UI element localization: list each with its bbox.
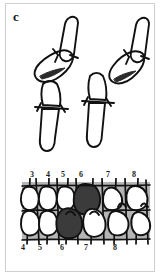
lower-tooth-number-4: 4 [18, 242, 28, 254]
upper-tooth-crown-7 [103, 188, 122, 211]
lower-tooth-crown-7 [83, 209, 105, 237]
occlusal-line-left [22, 210, 58, 211]
right-upper-tooth-root [131, 18, 149, 62]
figure-panel-c: c [0, 0, 161, 277]
lower-tooth-crown-6-shaded [56, 208, 82, 238]
occlusal-line-right [103, 210, 150, 211]
left-upper-cervical-tick-b [55, 55, 58, 62]
lower-tooth-number-7: 7 [81, 242, 91, 254]
lower-tooth-number-5: 5 [35, 242, 45, 254]
lower-tooth-number-8: 8 [110, 242, 120, 254]
dental-arch-diagram: 3 4 5 6 7 8 [10, 166, 152, 266]
upper-tooth-crown-8 [126, 186, 147, 210]
lower-tooth-number-6: 6 [57, 242, 67, 254]
left-lower-tooth-root [40, 109, 59, 151]
upper-cervical-line [22, 185, 150, 186]
left-upper-tooth-root [60, 17, 78, 61]
right-tooth-pair [82, 18, 149, 147]
left-tooth-pair [35, 17, 78, 151]
upper-tooth-crown-3 [39, 187, 57, 210]
lower-cervical-line [22, 239, 150, 240]
tooth-pair-drawings-group [8, 10, 153, 160]
right-upper-cervical-tick-b [126, 57, 129, 64]
tooth-pair-drawings-svg [8, 10, 153, 160]
left-lower-tooth-crown [42, 81, 61, 106]
lower-tooth-number-row: 4 5 6 7 8 [10, 242, 152, 254]
upper-tooth-crown-a [21, 187, 39, 210]
right-lower-tooth-crown [89, 73, 107, 100]
upper-tooth-crown-5 [57, 187, 75, 210]
left-wear-facet-wedge [40, 68, 65, 79]
lower-tooth-crown-4 [21, 211, 40, 235]
right-lower-tooth-root [87, 103, 105, 147]
lower-tooth-crown-8 [108, 211, 129, 235]
lower-tooth-crown-5 [39, 211, 58, 235]
